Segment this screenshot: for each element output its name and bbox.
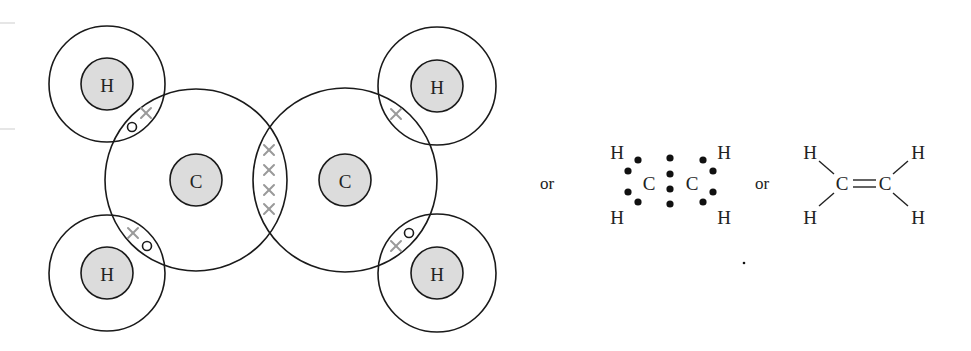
hydrogen-label: H (803, 142, 817, 163)
hydrogen-label: H (610, 207, 624, 228)
carbon-label: C (643, 173, 656, 194)
or-separator: or (755, 174, 770, 193)
ethene-bonding-diagram: C C H H H H (0, 0, 971, 351)
hydrogen-top-right-nucleus: H (411, 60, 463, 112)
hydrogen-label: H (717, 142, 731, 163)
hydrogen-label: H (100, 264, 114, 285)
orbital-model: C C H H H H (49, 26, 496, 332)
structural-formula: H H C C H H (803, 142, 925, 228)
lewis-structure: H H C C H H (610, 142, 731, 228)
carbon-right-nucleus: C (319, 154, 371, 206)
double-bond-electrons (264, 145, 274, 214)
hydrogen-label: H (430, 77, 444, 98)
ch-bond-electrons-top-left (128, 108, 152, 132)
or-separator: or (540, 174, 555, 193)
carbon-label: C (836, 173, 849, 194)
carbon-label: C (686, 173, 699, 194)
hydrogen-label: H (430, 264, 444, 285)
carbon-label: C (339, 171, 352, 192)
stray-dot (743, 262, 746, 265)
hydrogen-label: H (911, 207, 925, 228)
carbon-left-nucleus: C (170, 154, 222, 206)
hydrogen-label: H (803, 207, 817, 228)
electron-dots (624, 154, 716, 207)
carbon-label: C (879, 173, 892, 194)
ch-bond-electrons-top-right (391, 109, 401, 119)
hydrogen-label: H (100, 75, 114, 96)
hydrogen-label: H (610, 142, 624, 163)
bond-lines (819, 161, 908, 206)
carbon-label: C (190, 171, 203, 192)
hydrogen-label: H (911, 142, 925, 163)
hydrogen-bottom-right-nucleus: H (411, 247, 463, 299)
hydrogen-top-left-nucleus: H (81, 58, 133, 110)
hydrogen-label: H (717, 207, 731, 228)
hydrogen-bottom-left-nucleus: H (81, 247, 133, 299)
